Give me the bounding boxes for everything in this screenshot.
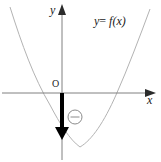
y-axis-arrowhead <box>58 4 66 15</box>
curve-equation-label: y= f(x) <box>94 15 126 27</box>
parabola-curve <box>10 7 150 147</box>
curve-equation-function: f(x) <box>109 14 126 28</box>
origin-label: O <box>52 79 59 89</box>
graph-canvas <box>0 0 161 162</box>
x-axis-label: x <box>147 94 152 106</box>
y-axis-label: y <box>50 4 55 16</box>
function-graph-figure: y x O y= f(x) <box>0 0 161 162</box>
curve-equation-operator: = <box>99 14 106 28</box>
